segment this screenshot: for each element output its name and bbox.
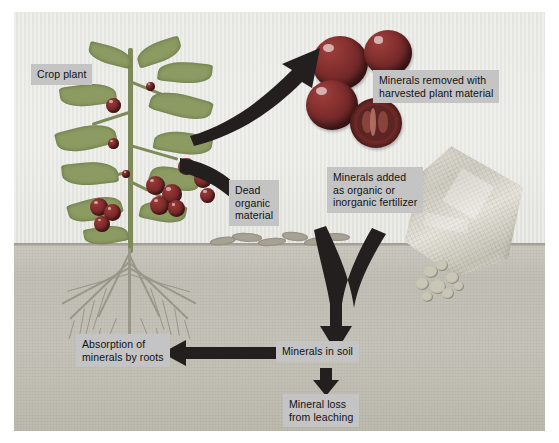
label-absorption-of-minerals: Absorption of minerals by roots [76, 334, 170, 367]
label-minerals-added: Minerals added as organic or inorganic f… [327, 167, 423, 213]
arrow-soil-to-leaching [313, 368, 339, 396]
label-minerals-removed: Minerals removed with harvested plant ma… [373, 70, 499, 103]
label-dead-organic-material: Dead organic material [229, 180, 279, 226]
arrow-soil-to-roots [162, 340, 280, 366]
mineral-cycling-figure: Crop plant Minerals removed with harvest… [0, 0, 559, 443]
label-mineral-loss-leaching: Mineral loss from leaching [283, 394, 359, 427]
arrow-plant-to-harvest [190, 48, 320, 146]
label-minerals-in-soil: Minerals in soil [276, 341, 359, 362]
arrow-merge-to-soil [314, 226, 386, 352]
label-crop-plant: Crop plant [31, 64, 92, 85]
illustration-scene: Crop plant Minerals removed with harvest… [14, 12, 545, 431]
